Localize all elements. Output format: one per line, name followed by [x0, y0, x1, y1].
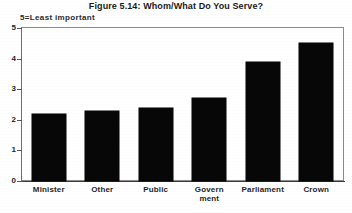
y-axis-tick [17, 181, 22, 182]
bar [85, 111, 119, 181]
bar-series [22, 28, 343, 181]
x-axis-tick-label: Government [183, 185, 237, 203]
bar-slot [183, 28, 237, 181]
x-axis-line [21, 181, 345, 182]
bar [299, 43, 333, 181]
x-axis-tick-label: Crown [290, 185, 344, 194]
x-axis-tick-label: Minister [22, 185, 76, 194]
y-axis-tick-label: 2 [4, 116, 16, 124]
bar [246, 62, 280, 181]
x-axis-tick-label: Other [76, 185, 130, 194]
x-axis-tick-label-line: Parliament [242, 185, 284, 194]
y-axis-tick-label: 3 [4, 85, 16, 93]
chart-title: Figure 5.14: Whom/What Do You Serve? [0, 1, 352, 12]
x-axis-tick-label: Public [129, 185, 183, 194]
x-axis-tick-label: Parliament [236, 185, 290, 194]
x-axis-tick-label-line: Other [91, 185, 113, 194]
y-axis-labels: 012345 [0, 0, 16, 213]
figure-bar-chart: Figure 5.14: Whom/What Do You Serve? 5=L… [0, 0, 352, 213]
bar [192, 98, 226, 181]
x-axis-tick-label-line: Public [143, 185, 168, 194]
y-axis-tick-label: 5 [4, 24, 16, 32]
x-axis-labels: MinisterOtherPublicGovernmentParliamentC… [22, 185, 343, 211]
y-axis-tick-label: 4 [4, 55, 16, 63]
y-axis-tick-label: 0 [4, 177, 16, 185]
bar [139, 108, 173, 181]
scale-note: 5=Least important [20, 13, 95, 23]
bar-slot [236, 28, 290, 181]
y-axis-tick-label: 1 [4, 146, 16, 154]
bar-slot [290, 28, 344, 181]
bar-slot [76, 28, 130, 181]
x-axis-tick-label-line: ment [183, 194, 237, 203]
bar [32, 114, 66, 181]
x-axis-tick-label-line: Minister [33, 185, 65, 194]
bar-slot [22, 28, 76, 181]
bar-slot [129, 28, 183, 181]
x-axis-tick-label-line: Govern [195, 185, 224, 194]
x-axis-tick-label-line: Crown [303, 185, 329, 194]
